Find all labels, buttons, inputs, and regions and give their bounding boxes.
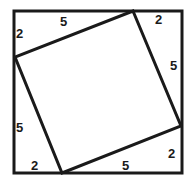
- label-bottom-long: 5: [122, 158, 129, 173]
- inner-square: [15, 11, 181, 173]
- outer-square: [14, 11, 182, 173]
- label-top-left-short: 2: [16, 26, 23, 41]
- label-right-short: 2: [168, 146, 175, 161]
- label-top-long: 5: [60, 14, 67, 29]
- label-top-right-short: 2: [155, 12, 162, 27]
- label-left-long: 5: [16, 120, 23, 135]
- label-right-long: 5: [170, 58, 177, 73]
- label-bottom-short: 2: [31, 158, 38, 173]
- diagram-canvas: 2 5 2 5 2 5 2 5: [0, 0, 190, 186]
